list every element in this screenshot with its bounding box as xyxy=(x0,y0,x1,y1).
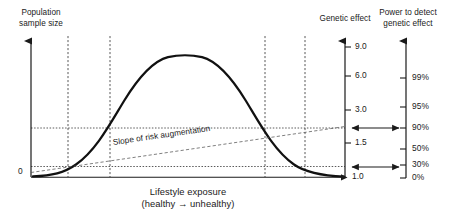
population-axis-title-line1: Population xyxy=(19,8,63,19)
genetic-effect-tick-label-1: 1.0 xyxy=(352,172,364,181)
power-tick-label-30: 30% xyxy=(412,160,429,169)
population-axis-zero-label: 0 xyxy=(18,167,23,176)
power-tick-label-0: 0% xyxy=(412,173,424,182)
sample-size-distribution-curve xyxy=(33,55,344,176)
genetic-effect-axis xyxy=(341,41,351,181)
population-axis-title: Population sample size xyxy=(19,8,63,29)
genetic-effect-tick-label-6: 6.0 xyxy=(355,71,367,80)
figure-canvas: Population sample size 0 Lifestyle expos… xyxy=(0,0,453,224)
power-axis-title: Power to detect genetic effect xyxy=(379,8,437,29)
population-axis xyxy=(31,41,345,177)
genetic-effect-tick-label-1-5: 1.5 xyxy=(355,138,367,147)
x-axis-title-line1: Lifestyle exposure xyxy=(142,186,235,198)
genetic-effect-tick-label-3: 3.0 xyxy=(355,105,367,114)
linking-arrows xyxy=(352,128,399,167)
genetic-effect-axis-title: Genetic effect xyxy=(319,14,370,25)
vertical-reference-lines xyxy=(68,36,305,177)
power-axis-title-line2: genetic effect xyxy=(379,19,437,30)
x-axis-title: Lifestyle exposure (healthy → unhealthy) xyxy=(142,186,235,210)
population-axis-title-line2: sample size xyxy=(19,19,63,30)
power-tick-label-50: 50% xyxy=(412,144,429,153)
power-tick-label-95: 95% xyxy=(412,102,429,111)
x-axis-title-line2: (healthy → unhealthy) xyxy=(142,198,235,210)
power-tick-label-90: 90% xyxy=(412,123,429,132)
genetic-effect-tick-label-9: 9.0 xyxy=(355,42,367,51)
power-axis-title-line1: Power to detect xyxy=(379,8,437,19)
genetic-effect-axis-bottom-marker xyxy=(341,174,348,180)
power-axis-ticks xyxy=(400,78,406,178)
power-axis xyxy=(400,41,406,178)
genetic-effect-ticks xyxy=(345,47,351,143)
power-tick-label-99: 99% xyxy=(412,73,429,82)
